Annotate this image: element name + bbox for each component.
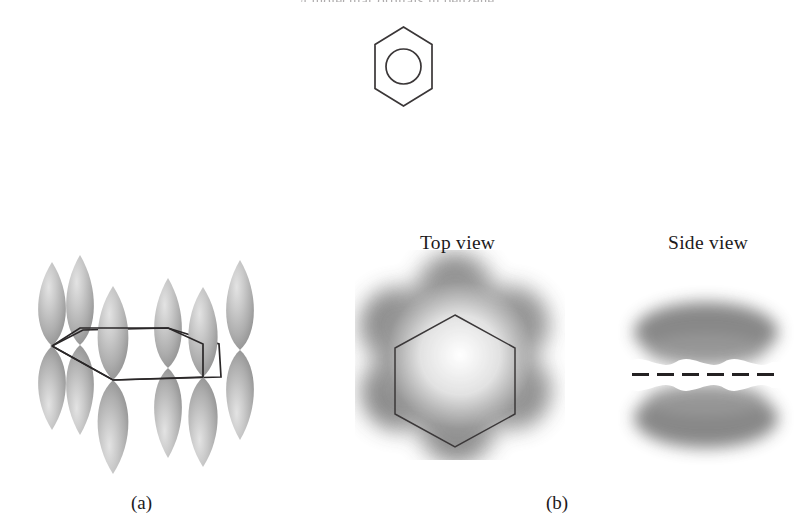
p-orbital-back-left xyxy=(66,255,94,435)
p-orbital-lobe-lower xyxy=(154,368,182,458)
side-view-label: Side view xyxy=(668,232,748,254)
figure-canvas xyxy=(0,0,794,522)
p-orbital-lobe-upper xyxy=(98,286,129,380)
p-orbital-lobe-upper xyxy=(38,262,66,346)
p-orbital-lobe-upper xyxy=(226,260,254,350)
side-view-diagram xyxy=(616,302,786,448)
panel-caption-b: (b) xyxy=(546,492,568,514)
panel-a-p-orbitals xyxy=(38,255,254,474)
p-orbital-lobe-lower xyxy=(98,380,129,474)
p-orbital-lobe-lower xyxy=(188,377,217,467)
p-orbital-back-center xyxy=(154,278,182,458)
p-orbital-lobe-lower xyxy=(38,346,66,430)
benzene-ring-symbol xyxy=(375,27,432,106)
benzene-hexagon-icon xyxy=(375,27,432,106)
figure-root: π molecular orbitals in benzene xyxy=(0,0,794,522)
top-view-label: Top view xyxy=(420,232,495,254)
p-orbital-lobe-lower xyxy=(66,345,94,435)
side-view-lobe-upper xyxy=(634,302,778,366)
top-view-diagram xyxy=(361,254,550,462)
top-view-electron-cloud xyxy=(361,254,550,462)
side-view-lobe-lower xyxy=(634,384,778,448)
panel-caption-a: (a) xyxy=(131,492,152,514)
p-orbital-back-right xyxy=(226,260,254,440)
benzene-aromatic-circle-icon xyxy=(386,49,421,84)
p-orbital-lobe-lower xyxy=(226,350,254,440)
p-orbital-lobe-upper xyxy=(154,278,182,368)
